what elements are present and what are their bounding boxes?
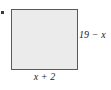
rectangle-shape bbox=[11, 9, 78, 70]
rectangle-width-label: x + 2 bbox=[11, 71, 78, 83]
bullet-point-marker bbox=[1, 11, 4, 14]
rectangle-height-label: 19 − x bbox=[79, 29, 106, 41]
geometry-figure: 19 − x x + 2 bbox=[0, 0, 111, 90]
